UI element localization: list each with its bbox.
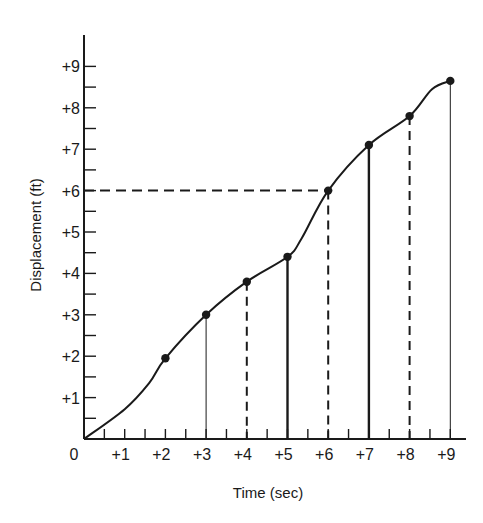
displacement-time-chart: +1+2+3+4+5+6+7+8+9 +1+2+3+4+5+6+7+8+9 0 …: [0, 0, 483, 523]
data-point: [405, 112, 413, 120]
y-axis-ticks: +1+2+3+4+5+6+7+8+9: [62, 58, 96, 418]
y-tick-label: +5: [62, 224, 80, 241]
displacement-curve: [84, 81, 450, 439]
x-tick-label: +2: [152, 446, 170, 463]
x-axis-ticks: +1+2+3+4+5+6+7+8+9: [104, 429, 455, 463]
drop-lines: [206, 81, 450, 439]
data-point: [243, 277, 251, 285]
y-tick-label: +6: [62, 183, 80, 200]
origin-label: 0: [70, 446, 79, 463]
data-curve: [84, 81, 450, 439]
data-point: [324, 186, 332, 194]
x-tick-label: +3: [193, 446, 211, 463]
x-tick-label: +6: [315, 446, 333, 463]
x-tick-label: +9: [437, 446, 455, 463]
y-tick-label: +4: [62, 265, 80, 282]
y-tick-label: +3: [62, 307, 80, 324]
y-tick-label: +1: [62, 390, 80, 407]
x-tick-label: +7: [356, 446, 374, 463]
x-tick-label: +1: [112, 446, 130, 463]
y-tick-label: +7: [62, 141, 80, 158]
data-point: [365, 141, 373, 149]
x-tick-label: +5: [274, 446, 292, 463]
data-point: [161, 354, 169, 362]
x-tick-label: +4: [234, 446, 252, 463]
x-axis-title: Time (sec): [233, 484, 303, 501]
data-point: [446, 77, 454, 85]
y-axis-title: Displacement (ft): [27, 178, 44, 291]
y-tick-label: +8: [62, 100, 80, 117]
data-point: [283, 253, 291, 261]
y-tick-label: +2: [62, 348, 80, 365]
x-tick-label: +8: [396, 446, 414, 463]
data-point: [202, 311, 210, 319]
y-tick-label: +9: [62, 58, 80, 75]
